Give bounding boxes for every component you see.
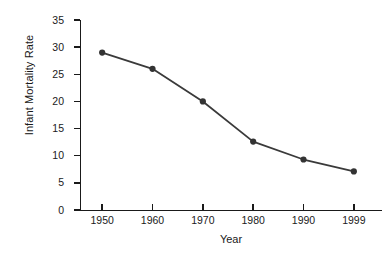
y-axis-title: Infant Mortality Rate [23,10,35,160]
series-markers [99,49,357,174]
chart-container: 05101520253035 195019601970198019901999 … [0,0,392,258]
series-line-infant-mortality-rate [102,53,354,172]
data-point-1999 [351,168,357,174]
data-point-1980 [250,139,256,145]
data-point-1970 [200,98,206,104]
plot-area [0,0,392,258]
data-point-1950 [99,49,105,55]
data-point-1990 [300,156,306,162]
data-point-1960 [149,66,155,72]
x-axis-title: Year [80,233,382,245]
